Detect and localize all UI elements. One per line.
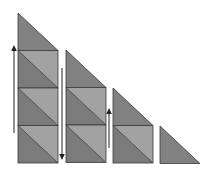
top-triangle <box>113 88 153 126</box>
arrow-head <box>59 154 65 160</box>
square-cell <box>113 126 153 164</box>
column-4 <box>160 126 200 164</box>
top-triangle <box>66 50 106 88</box>
square-cell <box>18 126 58 164</box>
top-triangle <box>160 126 200 164</box>
column-1 <box>18 13 58 163</box>
column-2 <box>66 50 106 163</box>
square-cell <box>66 88 106 126</box>
square-cell <box>18 51 58 89</box>
triangle-staircase-diagram <box>0 0 209 172</box>
arrow-head <box>11 45 17 51</box>
square-cell <box>18 88 58 126</box>
arrow-2-down-icon <box>59 68 65 160</box>
column-3 <box>113 88 153 163</box>
top-triangle <box>18 13 58 51</box>
arrow-head <box>106 108 112 114</box>
square-cell <box>66 125 106 163</box>
arrow-3-up-icon <box>106 108 112 148</box>
arrow-1-up-icon <box>11 45 17 133</box>
